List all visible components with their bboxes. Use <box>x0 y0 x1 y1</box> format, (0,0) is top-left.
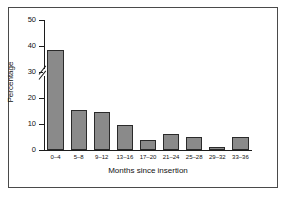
bar <box>94 112 110 150</box>
y-tick-label: 40 <box>14 42 36 50</box>
x-axis-title: Months since insertion <box>44 167 252 175</box>
x-tick-label: 9–12 <box>90 154 113 160</box>
bar-series <box>44 20 252 150</box>
x-axis-line <box>44 150 252 151</box>
y-tick-label: 20 <box>14 94 36 102</box>
x-tick-label: 5–8 <box>67 154 90 160</box>
x-tick-label: 29–32 <box>206 154 229 160</box>
bar <box>47 50 63 150</box>
bar <box>117 125 133 150</box>
y-tick-label: 50 <box>14 16 36 24</box>
y-tick-label: 10 <box>14 120 36 128</box>
bar <box>232 137 248 150</box>
bar <box>140 140 156 150</box>
bar <box>186 137 202 150</box>
x-tick-label: 0–4 <box>44 154 67 160</box>
bar <box>209 147 225 150</box>
x-tick-label: 33–36 <box>229 154 252 160</box>
x-tick-label: 13–16 <box>113 154 136 160</box>
bar <box>71 110 87 150</box>
x-tick-label: 17–20 <box>136 154 159 160</box>
y-axis-title: Percentage <box>7 47 15 117</box>
y-tick-label: 0 <box>14 146 36 154</box>
y-tick-label: 30 <box>14 68 36 76</box>
x-tick-label: 25–28 <box>183 154 206 160</box>
bar <box>163 134 179 150</box>
figure: 01020304050 0–45–89–1213–1617–2021–2425–… <box>0 0 288 197</box>
y-tick-mark <box>39 150 44 151</box>
x-tick-label: 21–24 <box>160 154 183 160</box>
